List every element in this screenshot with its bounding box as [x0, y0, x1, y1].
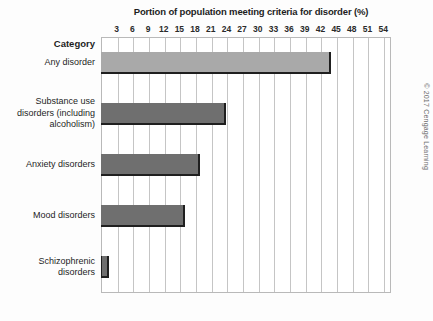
- x-axis-tick-labels: 369121518212427303336394245485154: [101, 24, 391, 38]
- bar-fill: [101, 256, 109, 278]
- bar-fill: [101, 205, 185, 227]
- bar: [101, 103, 226, 125]
- bar: [101, 205, 185, 227]
- x-tick-label: 21: [206, 24, 215, 34]
- category-label: Anxiety disorders: [0, 159, 95, 171]
- x-tick-label: 15: [175, 24, 184, 34]
- category-label: Mood disorders: [0, 210, 95, 222]
- bar: [101, 256, 109, 278]
- x-tick-label: 54: [378, 24, 387, 34]
- x-tick-label: 48: [347, 24, 356, 34]
- category-label: Schizophrenic disorders: [0, 256, 95, 279]
- bar-fill: [101, 52, 331, 74]
- x-tick-label: 51: [363, 24, 372, 34]
- bar-fill: [101, 103, 226, 125]
- x-tick-label: 36: [284, 24, 293, 34]
- chart-title: Portion of population meeting criteria f…: [101, 6, 401, 17]
- x-tick-label: 3: [114, 24, 119, 34]
- x-tick-label: 42: [316, 24, 325, 34]
- x-tick-label: 24: [222, 24, 231, 34]
- x-tick-label: 6: [130, 24, 135, 34]
- x-tick-label: 33: [269, 24, 278, 34]
- x-tick-label: 12: [159, 24, 168, 34]
- bar: [101, 52, 331, 74]
- category-labels: Any disorderSubstance use disorders (inc…: [0, 37, 95, 293]
- chart-figure: Portion of population meeting criteria f…: [0, 0, 433, 321]
- copyright-credit: © 2017 Cengage Learning: [423, 83, 430, 170]
- bar-fill: [101, 154, 200, 176]
- category-label: Substance use disorders (including alcoh…: [0, 96, 95, 131]
- x-tick-label: 9: [146, 24, 151, 34]
- category-label: Any disorder: [0, 57, 95, 69]
- bars-layer: [101, 37, 391, 293]
- x-tick-label: 39: [300, 24, 309, 34]
- bar: [101, 154, 200, 176]
- x-tick-label: 30: [253, 24, 262, 34]
- x-tick-label: 45: [331, 24, 340, 34]
- x-tick-label: 27: [237, 24, 246, 34]
- x-tick-label: 18: [190, 24, 199, 34]
